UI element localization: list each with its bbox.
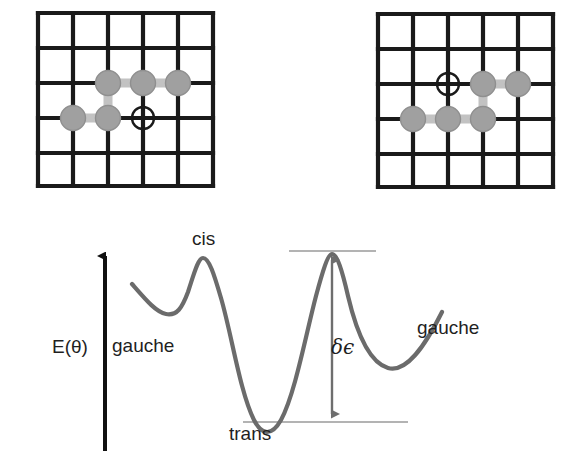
bead — [96, 106, 121, 131]
bead — [131, 71, 156, 96]
right-lattice-gridlines — [378, 14, 553, 187]
bead — [96, 71, 121, 96]
label-cis: cis — [192, 229, 215, 248]
label-gauche-right: gauche — [417, 318, 479, 337]
bead — [401, 107, 426, 132]
right-lattice — [368, 4, 564, 200]
left-lattice-gridlines — [38, 13, 213, 186]
bead — [471, 107, 496, 132]
left-lattice-bonds — [73, 83, 178, 118]
right-lattice-bonds — [413, 84, 518, 119]
y-axis-label: E(θ) — [52, 337, 88, 356]
bead — [61, 106, 86, 131]
bead — [436, 107, 461, 132]
figure-root: cis trans gauche gauche E(θ) δϵ — [0, 0, 572, 451]
label-trans: trans — [229, 424, 271, 443]
left-lattice — [28, 3, 224, 199]
energy-profile-chart — [0, 200, 572, 451]
bead — [506, 72, 531, 97]
energy-curve — [132, 254, 442, 432]
label-gauche-left: gauche — [112, 336, 174, 355]
energy-barrier-label: δϵ — [331, 337, 354, 357]
bead — [471, 72, 496, 97]
bead — [166, 71, 191, 96]
